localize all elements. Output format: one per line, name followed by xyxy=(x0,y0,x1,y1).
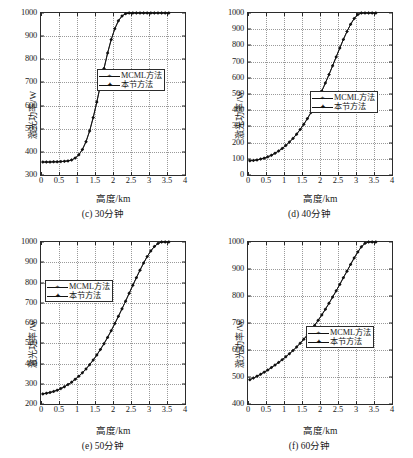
series-marker xyxy=(157,242,160,245)
x-axis-tick-label: 4 xyxy=(183,404,187,414)
series-marker xyxy=(252,159,255,162)
legend-item-benjie: ✦本节方法 xyxy=(47,291,110,300)
legend-item-mcml: +MCML方法 xyxy=(312,93,375,102)
data-series-group xyxy=(41,242,185,404)
series-marker xyxy=(70,381,73,384)
series-marker xyxy=(292,137,295,140)
series-marker xyxy=(357,251,360,254)
series-marker xyxy=(150,12,153,15)
y-axis-tick-label: 800 xyxy=(232,41,248,49)
series-marker xyxy=(339,283,342,286)
series-marker xyxy=(121,308,124,311)
x-axis-tick-mark xyxy=(185,242,186,245)
series-marker xyxy=(324,82,327,85)
x-axis-tick-label: 3.5 xyxy=(162,175,172,185)
series-marker xyxy=(306,117,309,120)
x-axis-tick-label: 1 xyxy=(75,175,79,185)
series-marker xyxy=(96,354,99,357)
series-marker xyxy=(49,391,52,394)
series-marker xyxy=(349,263,352,266)
y-axis-tick-label: 700 xyxy=(232,319,248,327)
series-marker xyxy=(103,342,106,345)
plot-area-d: 0100200300400500600700800900100000.511.5… xyxy=(247,12,393,176)
x-axis-tick-label: 0 xyxy=(39,175,43,185)
series-line xyxy=(250,13,376,161)
series-marker xyxy=(132,12,135,15)
series-marker xyxy=(364,12,367,15)
legend-marker-plus-icon: + xyxy=(308,329,329,337)
y-axis-tick-label: 1000 xyxy=(21,238,41,246)
series-marker xyxy=(339,47,342,50)
x-axis-tick-label: 0.5 xyxy=(261,404,271,414)
series-marker xyxy=(135,276,138,279)
series-marker xyxy=(274,152,277,155)
series-marker xyxy=(299,342,302,345)
x-axis-tick-label: 0 xyxy=(39,404,43,414)
x-axis-tick-label: 1 xyxy=(75,404,79,414)
series-marker xyxy=(285,144,288,147)
panel-caption-e: (e) 50分钟 xyxy=(0,438,206,452)
x-axis-tick-mark xyxy=(392,401,393,404)
x-axis-tick-label: 2.5 xyxy=(126,404,136,414)
series-marker xyxy=(335,56,338,59)
series-marker xyxy=(288,141,291,144)
series-marker xyxy=(267,156,270,159)
y-axis-tick-label: 1000 xyxy=(228,238,248,246)
legend-item-mcml: +MCML方法 xyxy=(99,71,162,80)
series-marker xyxy=(157,12,160,15)
plot-area-c: 300400500600700800900100000.511.522.533.… xyxy=(40,12,186,176)
x-axis-tick-mark xyxy=(392,13,393,16)
legend: +MCML方法✦本节方法 xyxy=(310,91,378,113)
y-axis-tick-label: 900 xyxy=(232,25,248,33)
series-marker xyxy=(67,383,70,386)
legend-marker-plus-icon: + xyxy=(99,72,120,80)
x-axis-label: 高度/km xyxy=(247,423,393,437)
series-marker xyxy=(60,160,63,163)
y-axis-tick-label: 400 xyxy=(25,148,41,156)
series-marker xyxy=(353,257,356,260)
series-marker xyxy=(74,378,77,381)
legend-marker-diamond-icon: ✦ xyxy=(99,81,120,89)
series-marker xyxy=(153,12,156,15)
series-marker xyxy=(153,245,156,248)
series-marker xyxy=(357,13,360,16)
legend-item-benjie: ✦本节方法 xyxy=(312,102,375,111)
series-marker xyxy=(78,154,81,157)
y-axis-tick-label: 600 xyxy=(232,346,248,354)
series-marker xyxy=(324,308,327,311)
series-marker xyxy=(146,12,149,15)
x-axis-tick-label: 3.5 xyxy=(162,404,172,414)
x-axis-label: 高度/km xyxy=(40,191,186,205)
legend-label: MCML方法 xyxy=(330,328,371,337)
y-axis-tick-label: 700 xyxy=(25,299,41,307)
x-axis-tick-label: 2.5 xyxy=(333,404,343,414)
y-axis-tick-label: 700 xyxy=(25,78,41,86)
legend-label: MCML方法 xyxy=(69,282,110,291)
series-marker xyxy=(349,23,352,26)
series-marker xyxy=(164,12,167,15)
series-marker xyxy=(360,12,363,15)
legend-marker-diamond-icon: ✦ xyxy=(308,338,329,346)
x-axis-tick-label: 3 xyxy=(354,404,358,414)
y-axis-tick-label: 900 xyxy=(25,258,41,266)
legend-label: 本节方法 xyxy=(334,102,366,111)
series-marker xyxy=(249,159,252,162)
x-axis-tick-label: 2 xyxy=(318,404,322,414)
series-marker xyxy=(164,241,167,244)
series-marker xyxy=(259,158,262,161)
series-marker xyxy=(360,246,363,249)
series-line xyxy=(43,242,169,394)
x-axis-tick-label: 1 xyxy=(282,175,286,185)
series-marker xyxy=(342,38,345,41)
series-marker xyxy=(252,377,255,380)
y-axis-tick-label: 800 xyxy=(25,55,41,63)
series-marker xyxy=(335,290,338,293)
series-marker xyxy=(168,241,171,244)
series-marker xyxy=(346,270,349,273)
series-marker xyxy=(128,12,131,15)
x-axis-tick-label: 0.5 xyxy=(54,404,64,414)
x-axis-tick-label: 0 xyxy=(246,175,250,185)
series-line xyxy=(43,242,169,394)
y-axis-tick-label: 1000 xyxy=(228,9,248,17)
y-axis-tick-label: 800 xyxy=(232,292,248,300)
